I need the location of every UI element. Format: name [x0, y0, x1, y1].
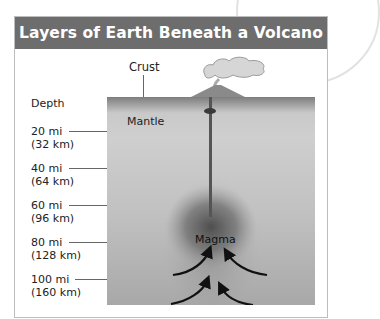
mantle-label: Mantle — [127, 115, 164, 128]
magma-label: Magma — [195, 233, 236, 246]
volcano-cone-icon — [191, 85, 245, 97]
magma-conduit — [209, 97, 212, 217]
cross-section-graphics — [107, 97, 315, 305]
smoke-cloud-icon — [204, 57, 264, 91]
figure-frame: Layers of Earth Beneath a Volcano Crust … — [14, 16, 328, 318]
vent-reservoir — [204, 108, 216, 114]
cross-section: Mantle Magma — [107, 97, 315, 305]
